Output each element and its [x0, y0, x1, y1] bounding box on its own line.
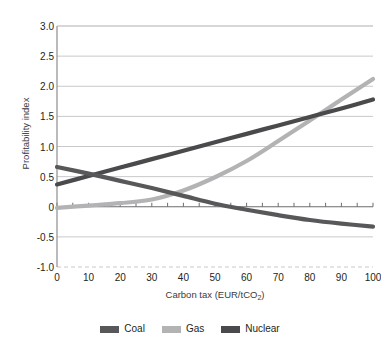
legend-item-coal[interactable]: Coal — [100, 324, 145, 334]
legend-swatch-gas — [162, 326, 181, 333]
legend-item-gas[interactable]: Gas — [162, 324, 204, 334]
y-axis-tick-label: -0.5 — [20, 231, 54, 242]
clipped-caption-fragment — [0, 0, 380, 3]
legend-label-nuclear: Nuclear — [245, 324, 279, 334]
legend-swatch-coal — [100, 326, 119, 333]
y-axis-tick-label: 0 — [20, 201, 54, 212]
x-axis-title-tail: ) — [261, 289, 264, 300]
x-axis-title: Carbon tax (EUR/tCO2) — [56, 289, 374, 300]
x-axis-title-subscript: 2 — [257, 294, 261, 301]
x-axis-tick-label: 60 — [241, 272, 252, 283]
legend-swatch-nuclear — [221, 326, 240, 333]
x-axis-tick-label: 50 — [209, 272, 220, 283]
x-axis-tick-label: 90 — [336, 272, 347, 283]
y-axis-tick-label: -1.0 — [20, 262, 54, 273]
y-axis-tick-label: 1.5 — [20, 111, 54, 122]
x-axis-tick-label: 20 — [115, 272, 126, 283]
x-axis-tick-label: 100 — [365, 272, 381, 283]
chart-legend: CoalGasNuclear — [0, 324, 380, 334]
x-axis-tick-label: 10 — [83, 272, 94, 283]
y-axis-tick-label: 2.5 — [20, 51, 54, 62]
x-axis-tick-label: 40 — [178, 272, 189, 283]
x-axis-title-main: Carbon tax (EUR/tCO — [166, 289, 258, 300]
legend-label-coal: Coal — [124, 324, 145, 334]
y-axis-tick-label: 0.5 — [20, 171, 54, 182]
legend-item-nuclear[interactable]: Nuclear — [221, 324, 279, 334]
series-line-nuclear — [57, 100, 373, 185]
y-axis-tick-label: 3.0 — [20, 21, 54, 32]
x-axis-tick-label: 70 — [273, 272, 284, 283]
x-axis-tick-label: 30 — [146, 272, 157, 283]
legend-label-gas: Gas — [186, 324, 204, 334]
y-axis-tick-label: 2.0 — [20, 81, 54, 92]
x-axis-tick-label: 80 — [304, 272, 315, 283]
x-axis-tick-label: 0 — [54, 272, 60, 283]
y-axis-tick-labels: -1.0-0.500.51.01.52.02.53.0 — [14, 0, 54, 351]
y-axis-tick-label: 1.0 — [20, 141, 54, 152]
